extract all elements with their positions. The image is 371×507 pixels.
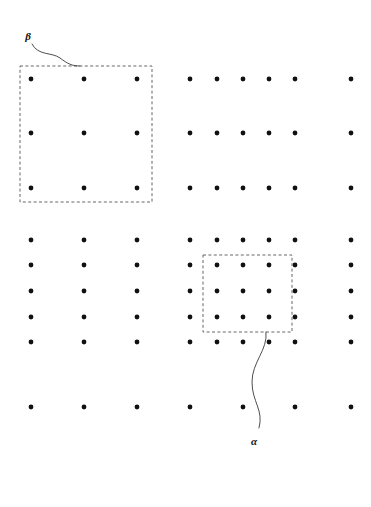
lattice-dot — [82, 131, 87, 136]
lattice-dot — [349, 405, 354, 410]
lattice-dot — [135, 263, 140, 268]
lattice-dot — [188, 263, 193, 268]
lattice-dot — [215, 340, 220, 345]
lattice-dot — [267, 131, 272, 136]
lattice-dot — [241, 315, 246, 320]
lattice-dot — [349, 186, 354, 191]
lattice-dot — [135, 131, 140, 136]
lattice-dot — [293, 186, 298, 191]
lattice-dot — [241, 340, 246, 345]
lattice-dot — [29, 289, 34, 294]
lattice-dot — [241, 405, 246, 410]
lattice-dot — [215, 289, 220, 294]
lattice-dot — [82, 186, 87, 191]
lattice-dot — [349, 77, 354, 82]
lattice-dot — [349, 238, 354, 243]
lattice-dot — [82, 289, 87, 294]
lattice-dot — [241, 289, 246, 294]
lattice-dot — [267, 238, 272, 243]
lattice-figure: βα — [0, 0, 371, 507]
lattice-dot — [29, 77, 34, 82]
lattice-dot — [135, 340, 140, 345]
lattice-dot — [293, 289, 298, 294]
lattice-dot — [241, 263, 246, 268]
lattice-dot — [135, 77, 140, 82]
lattice-dot — [267, 263, 272, 268]
lattice-dot — [135, 238, 140, 243]
lattice-dot — [29, 405, 34, 410]
lattice-dot — [29, 238, 34, 243]
lattice-dot — [188, 315, 193, 320]
lattice-dot — [267, 340, 272, 345]
lattice-dot — [135, 405, 140, 410]
lattice-dot — [29, 263, 34, 268]
lattice-dot — [293, 315, 298, 320]
lattice-dot — [349, 315, 354, 320]
lattice-dot — [241, 186, 246, 191]
lattice-dot — [241, 131, 246, 136]
lattice-dot — [188, 77, 193, 82]
lattice-dot — [293, 405, 298, 410]
lattice-dot — [215, 315, 220, 320]
lattice-dot — [293, 263, 298, 268]
figure-canvas: βα — [0, 0, 371, 507]
lattice-dot — [82, 340, 87, 345]
lattice-dot — [293, 238, 298, 243]
lattice-dot — [349, 289, 354, 294]
lattice-dot — [241, 238, 246, 243]
lattice-dot — [215, 131, 220, 136]
lattice-dot — [82, 77, 87, 82]
lattice-dot — [267, 315, 272, 320]
lattice-dot — [29, 186, 34, 191]
lattice-dot — [215, 77, 220, 82]
lattice-dot — [82, 263, 87, 268]
alpha-region-label: α — [251, 435, 258, 447]
lattice-dot — [293, 77, 298, 82]
lattice-dot — [267, 186, 272, 191]
lattice-dot — [188, 340, 193, 345]
lattice-dot — [267, 289, 272, 294]
lattice-dot — [188, 238, 193, 243]
lattice-dot — [135, 186, 140, 191]
lattice-dot — [349, 263, 354, 268]
lattice-dot — [82, 238, 87, 243]
lattice-dot — [349, 340, 354, 345]
lattice-dot — [29, 340, 34, 345]
lattice-dot — [82, 405, 87, 410]
lattice-dot — [29, 131, 34, 136]
lattice-dot — [188, 405, 193, 410]
lattice-dot — [215, 238, 220, 243]
lattice-dot — [188, 131, 193, 136]
lattice-dot — [82, 315, 87, 320]
lattice-dot — [135, 289, 140, 294]
lattice-dot — [241, 77, 246, 82]
beta-region-label: β — [24, 30, 31, 42]
lattice-dot — [188, 186, 193, 191]
lattice-dot — [267, 77, 272, 82]
lattice-dot — [293, 340, 298, 345]
lattice-dot — [188, 289, 193, 294]
lattice-dot — [215, 186, 220, 191]
lattice-dot — [293, 131, 298, 136]
lattice-dot — [135, 315, 140, 320]
lattice-dot — [29, 315, 34, 320]
lattice-dot — [215, 263, 220, 268]
figure-background — [0, 0, 371, 507]
lattice-dot — [349, 131, 354, 136]
